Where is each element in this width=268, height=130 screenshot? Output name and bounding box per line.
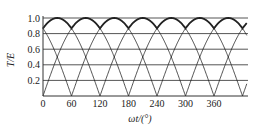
x-tick-label: 300 [178,98,193,109]
phase-curve [43,18,247,96]
x-tick-label: 0 [41,98,46,109]
y-axis-title: T/E [5,53,16,67]
y-tick-labels: 0.20.40.60.81.0 [28,13,41,86]
envelope-curve [43,18,247,28]
x-tick-labels: 060120180240300360 [41,98,222,109]
x-tick-label: 240 [150,98,165,109]
grid-lines [43,18,248,80]
x-tick-label: 60 [67,98,77,109]
y-tick-label: 0.6 [28,44,41,55]
x-axis-title: ωt/(°) [128,113,152,125]
phase-curve [43,18,247,96]
x-tick-label: 120 [93,98,108,109]
phase-curve [43,18,247,96]
y-tick-label: 0.2 [28,75,41,86]
x-tick-label: 360 [207,98,222,109]
axes [43,16,248,96]
y-tick-label: 0.4 [28,59,41,70]
chart: 0.20.40.60.81.0 060120180240300360 T/E ω… [0,0,268,130]
x-tick-label: 180 [121,98,136,109]
curves [43,18,247,96]
y-tick-label: 0.8 [28,28,41,39]
y-tick-label: 1.0 [28,13,41,24]
